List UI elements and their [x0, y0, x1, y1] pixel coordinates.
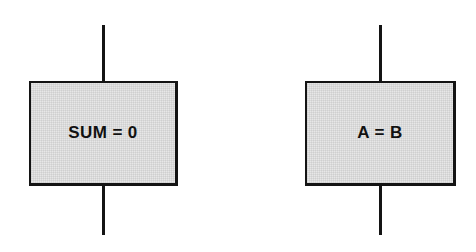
process-node-ab[interactable]: A = B — [305, 81, 456, 186]
process-node-sum-label: SUM = 0 — [68, 123, 137, 143]
flowchart-canvas: SUM = 0 A = B — [0, 0, 476, 252]
process-node-sum[interactable]: SUM = 0 — [29, 81, 178, 186]
connector-line-sum-in — [102, 25, 105, 83]
connector-line-ab-out — [379, 184, 382, 235]
connector-line-ab-in — [379, 25, 382, 83]
process-node-ab-label: A = B — [357, 123, 402, 143]
connector-line-sum-out — [102, 184, 105, 235]
